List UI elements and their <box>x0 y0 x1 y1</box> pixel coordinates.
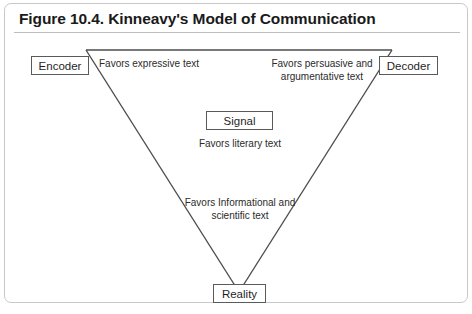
node-signal-label: Signal <box>224 115 256 127</box>
triangle-right-edge <box>239 50 392 292</box>
triangle-left-edge <box>86 50 239 292</box>
node-encoder-label: Encoder <box>39 60 82 72</box>
node-decoder-label: Decoder <box>387 60 430 72</box>
node-decoder[interactable]: Decoder <box>379 56 438 75</box>
communication-triangle-diagram <box>5 4 469 304</box>
caption-literary: Favors literary text <box>182 137 298 150</box>
node-signal[interactable]: Signal <box>206 111 273 130</box>
node-reality-label: Reality <box>222 288 257 300</box>
figure-card: Figure 10.4. Kinneavy's Model of Communi… <box>4 3 468 303</box>
caption-informational: Favors Informational and scientific text <box>181 196 299 222</box>
node-encoder[interactable]: Encoder <box>31 56 89 75</box>
node-reality[interactable]: Reality <box>213 284 266 303</box>
caption-persuasive: Favors persuasive and argumentative text <box>267 57 377 83</box>
caption-expressive: Favors expressive text <box>97 57 201 70</box>
